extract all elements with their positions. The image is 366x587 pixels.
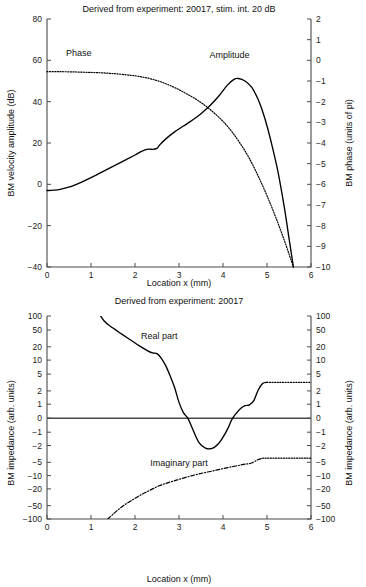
xtick-label-bottom: 2 — [133, 522, 138, 532]
curves-bottom — [95, 308, 311, 519]
ytick-label-left-bottom: 1 — [37, 399, 42, 409]
ytick-label-left-bottom: 5 — [37, 369, 42, 379]
ytick-label-left-bottom: −1 — [32, 427, 42, 437]
ytick-label-right-top: −4 — [316, 138, 326, 148]
ytick-label-left-top: 40 — [33, 97, 43, 107]
yaxis-label-left-top: BM velocity amplitude (dB) — [6, 89, 16, 196]
ytick-label-right-bottom: 50 — [316, 325, 326, 335]
ytick-label-right-bottom: 2 — [316, 386, 321, 396]
ytick-label-right-top: 1 — [316, 35, 321, 45]
annotation-amplitude: Amplitude — [210, 50, 250, 60]
annotations-top: PhaseAmplitude — [66, 48, 250, 60]
xtick-label-bottom: 5 — [265, 522, 270, 532]
ytick-label-right-bottom: −20 — [316, 484, 331, 494]
xaxis-label-bottom: Location x (mm) — [147, 574, 212, 584]
ytick-label-left-bottom: −5 — [32, 457, 42, 467]
ytick-label-left-bottom: 0 — [37, 413, 42, 423]
xtick-label-top: 6 — [309, 270, 314, 280]
ytick-label-right-bottom: −100 — [316, 514, 335, 524]
ytick-label-right-top: −6 — [316, 179, 326, 189]
chart-title-top: Derived from experiment: 20017, stim. in… — [82, 4, 275, 14]
xtick-label-bottom: 1 — [89, 522, 94, 532]
ytick-label-left-bottom: −2 — [32, 441, 42, 451]
ytick-label-left-top: −20 — [28, 221, 43, 231]
ytick-label-right-bottom: 5 — [316, 369, 321, 379]
ytick-label-left-bottom: 10 — [33, 355, 43, 365]
ytick-label-left-bottom: 50 — [33, 325, 43, 335]
ytick-label-left-top: 0 — [37, 179, 42, 189]
ytick-label-left-bottom: −20 — [28, 484, 43, 494]
yaxis-label-left-bottom: BM impedance (arb. units) — [6, 380, 16, 486]
ytick-label-left-bottom: −10 — [28, 471, 43, 481]
ytick-label-right-top: −5 — [316, 159, 326, 169]
ytick-label-right-bottom: −10 — [316, 471, 331, 481]
ytick-label-left-bottom: 100 — [28, 311, 42, 321]
ytick-label-right-bottom: −50 — [316, 501, 331, 511]
xtick-label-bottom: 4 — [221, 522, 226, 532]
ytick-label-left-bottom: 20 — [33, 342, 43, 352]
ytick-label-left-top: 20 — [33, 138, 43, 148]
xtick-label-top: 5 — [265, 270, 270, 280]
yaxis-label-right-bottom: BM impedance (arb. units) — [344, 380, 354, 486]
yaxis-label-right-top: BM phase (units of pi) — [344, 99, 354, 187]
ytick-label-right-bottom: 1 — [316, 399, 321, 409]
ytick-label-right-top: −2 — [316, 97, 326, 107]
ytick-label-right-top: 2 — [316, 14, 321, 24]
curve-real-part — [95, 308, 267, 449]
ytick-label-left-top: −40 — [28, 262, 43, 272]
figure-container: Derived from experiment: 20017, stim. in… — [0, 0, 366, 587]
ytick-label-left-top: 60 — [33, 55, 43, 65]
ytick-label-left-top: 80 — [33, 14, 43, 24]
annotation-imaginary-part: Imaginary part — [150, 458, 208, 468]
ytick-label-right-bottom: −5 — [316, 457, 326, 467]
xtick-label-top: 0 — [45, 270, 50, 280]
chart-svg-top: Derived from experiment: 20017, stim. in… — [0, 0, 366, 290]
ytick-label-right-bottom: 10 — [316, 355, 326, 365]
xtick-label-bottom: 6 — [309, 522, 314, 532]
xtick-label-bottom: 0 — [45, 522, 50, 532]
ytick-label-right-top: −3 — [316, 117, 326, 127]
curve-phase — [47, 72, 293, 267]
ytick-label-right-top: −9 — [316, 241, 326, 251]
ytick-label-right-bottom: 20 — [316, 342, 326, 352]
chart-title-bottom: Derived from experiment: 20017 — [115, 296, 244, 306]
ytick-label-left-bottom: 2 — [37, 386, 42, 396]
ytick-label-right-top: −7 — [316, 200, 326, 210]
ytick-label-right-top: −1 — [316, 76, 326, 86]
xtick-label-top: 1 — [89, 270, 94, 280]
ytick-label-right-bottom: 100 — [316, 311, 330, 321]
ytick-label-right-top: −8 — [316, 221, 326, 231]
curves-top — [47, 72, 293, 267]
ytick-label-left-bottom: −50 — [28, 501, 43, 511]
ytick-label-left-bottom: −100 — [23, 514, 42, 524]
ytick-label-right-top: 0 — [316, 55, 321, 65]
annotation-phase: Phase — [66, 48, 92, 58]
annotation-real-part: Real part — [141, 331, 178, 341]
xtick-label-bottom: 3 — [177, 522, 182, 532]
chart-panel-velocity-phase: Derived from experiment: 20017, stim. in… — [0, 0, 366, 290]
axes-bottom: 012345610010050502020101055221100−1−1−2−… — [23, 311, 336, 532]
xaxis-label-top: Location x (mm) — [147, 278, 212, 288]
ytick-label-right-top: −10 — [316, 262, 331, 272]
ytick-label-right-bottom: −2 — [316, 441, 326, 451]
xtick-label-top: 2 — [133, 270, 138, 280]
ytick-label-right-bottom: 0 — [316, 413, 321, 423]
chart-panel-impedance: Derived from experiment: 20017 012345610… — [0, 290, 366, 587]
chart-svg-bottom: Derived from experiment: 20017 012345610… — [0, 290, 366, 587]
ytick-label-right-bottom: −1 — [316, 427, 326, 437]
xtick-label-top: 4 — [221, 270, 226, 280]
